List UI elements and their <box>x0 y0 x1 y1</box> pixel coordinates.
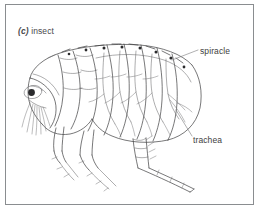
foreleg <box>52 127 78 180</box>
caption-part-letter: (c) <box>18 26 29 36</box>
spiracle-target <box>169 56 172 59</box>
spiracle-leader-line <box>172 50 198 60</box>
thorax-segments <box>55 48 97 131</box>
head <box>23 74 59 128</box>
hindleg <box>133 136 194 192</box>
trachea-leader-line <box>176 110 192 136</box>
figure-caption: (c) insect <box>18 26 54 36</box>
tracheal-tubes <box>89 51 192 137</box>
compound-eye <box>28 89 35 96</box>
figure-panel: (c) insect spiracle trachea <box>0 0 259 214</box>
label-trachea: trachea <box>193 135 222 145</box>
label-spiracle: spiracle <box>200 46 230 56</box>
caption-subject: insect <box>31 26 54 36</box>
midleg <box>79 130 116 191</box>
